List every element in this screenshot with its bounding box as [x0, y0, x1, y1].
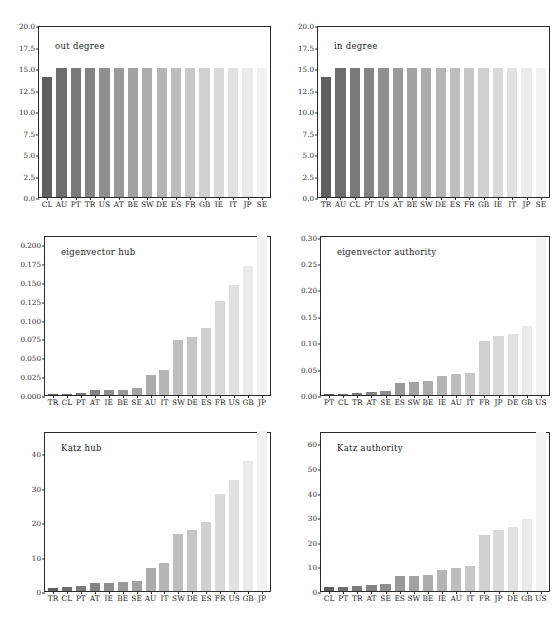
- panel-title: eigenvector hub: [61, 247, 135, 257]
- x-axis-tick-cell: US: [97, 197, 111, 213]
- x-axis-tick-cell: GB: [197, 197, 211, 213]
- x-axis-tick-row: PTCLTRATSEESSWBEIEAUITFRJPDEGBUS: [321, 395, 549, 411]
- bar: [350, 68, 360, 197]
- bar-slot: [171, 433, 185, 591]
- x-axis-tick-cell: ES: [199, 591, 213, 607]
- bar-slot: [449, 433, 463, 591]
- bar-slot: [54, 27, 68, 197]
- bar: [215, 494, 225, 591]
- x-axis-tick-cell: JP: [519, 197, 533, 213]
- bar: [464, 68, 474, 197]
- panel-title: eigenvector authority: [337, 247, 436, 257]
- bar-slot: [102, 433, 116, 591]
- x-axis-tick-cell: IT: [158, 591, 172, 607]
- x-axis-tick-label: IE: [438, 595, 446, 602]
- chart-panel-4: 010203040Katz hubTRCLPTATIEBESEAUITSWDEE…: [44, 432, 271, 592]
- bar-slot: [534, 433, 548, 591]
- x-axis-tick-label: DE: [187, 595, 198, 602]
- x-axis-tick-label: US: [99, 201, 110, 208]
- x-axis-tick-label: GB: [199, 201, 210, 208]
- x-axis-tick-label: TR: [352, 399, 363, 406]
- bar-slot: [116, 433, 130, 591]
- x-axis-tick-cell: AU: [144, 591, 158, 607]
- x-axis-tick-cell: PT: [74, 591, 88, 607]
- bar-slot: [534, 237, 548, 395]
- x-axis-tick-label: FR: [464, 201, 475, 208]
- bar: [229, 285, 239, 395]
- x-axis-tick-label: SE: [380, 399, 390, 406]
- x-axis-tick-label: US: [229, 595, 240, 602]
- x-axis-tick-label: BE: [423, 595, 434, 602]
- x-axis-tick-label: ES: [394, 399, 404, 406]
- bar-slot: [448, 27, 462, 197]
- bar-slot: [379, 433, 393, 591]
- x-axis-tick-cell: CL: [336, 395, 350, 411]
- bar-slot: [112, 27, 126, 197]
- x-axis-tick-label: SW: [420, 201, 433, 208]
- bar-slot: [407, 237, 421, 395]
- x-axis-tick-cell: IE: [102, 591, 116, 607]
- bar: [395, 383, 405, 395]
- x-axis-tick-cell: SE: [379, 591, 393, 607]
- bar-slot: [435, 237, 449, 395]
- x-axis-tick-label: GB: [242, 595, 253, 602]
- bar-slot: [255, 433, 269, 591]
- bar-slot: [197, 27, 211, 197]
- x-axis-tick-cell: FR: [213, 591, 227, 607]
- x-axis-tick-label: GB: [521, 399, 532, 406]
- x-axis-tick-cell: IT: [226, 197, 240, 213]
- bar: [450, 68, 460, 197]
- bar-slot: [364, 433, 378, 591]
- x-axis-tick-label: IE: [215, 201, 223, 208]
- bar: [423, 381, 433, 395]
- x-axis-tick-cell: PT: [362, 197, 376, 213]
- x-axis-tick-label: US: [229, 399, 240, 406]
- bar-slot: [364, 237, 378, 395]
- bar-slot: [155, 27, 169, 197]
- x-axis-tick-cell: GB: [241, 395, 255, 411]
- bar: [465, 566, 475, 591]
- bar-slot: [144, 237, 158, 395]
- x-axis-tick-cell: SW: [171, 395, 185, 411]
- bar-slot: [226, 27, 240, 197]
- bar-slot: [255, 237, 269, 395]
- bar-slot: [102, 237, 116, 395]
- x-axis-tick-label: FR: [479, 399, 490, 406]
- bar-slot: [74, 433, 88, 591]
- bar-slot: [477, 237, 491, 395]
- x-axis-tick-cell: ES: [393, 395, 407, 411]
- x-axis-tick-label: AU: [450, 399, 462, 406]
- x-axis-tick-cell: TR: [83, 197, 97, 213]
- bar: [321, 77, 331, 197]
- bar: [451, 568, 461, 591]
- bar-slot: [379, 237, 393, 395]
- bars-container: [45, 237, 270, 395]
- x-axis-tick-cell: ES: [199, 395, 213, 411]
- bar-slot: [477, 433, 491, 591]
- x-axis-tick-cell: CL: [40, 197, 54, 213]
- x-axis-tick-label: AU: [450, 595, 462, 602]
- x-axis-tick-label: SW: [141, 201, 154, 208]
- plot-axes: 0102030405060Katz authorityCLPTTRATSEESS…: [320, 432, 550, 592]
- bar: [536, 238, 546, 395]
- x-axis-tick-cell: PT: [322, 395, 336, 411]
- bar: [257, 235, 267, 395]
- x-axis-tick-cell: IT: [158, 395, 172, 411]
- x-axis-tick-label: DE: [507, 595, 518, 602]
- x-axis-tick-cell: JP: [255, 395, 269, 411]
- x-axis-tick-label: PT: [338, 595, 348, 602]
- x-axis-tick-cell: DE: [434, 197, 448, 213]
- bar: [421, 68, 431, 197]
- bar: [380, 584, 390, 591]
- x-axis-tick-label: PT: [71, 201, 81, 208]
- bar: [104, 583, 114, 591]
- x-axis-tick-label: AT: [367, 399, 377, 406]
- x-axis-tick-label: ES: [201, 399, 211, 406]
- x-axis-tick-cell: JP: [255, 591, 269, 607]
- bar-slot: [435, 433, 449, 591]
- x-axis-tick-label: JP: [495, 399, 503, 406]
- x-axis-tick-cell: GB: [476, 197, 490, 213]
- x-axis-tick-cell: TR: [350, 395, 364, 411]
- x-axis-tick-label: BE: [117, 399, 128, 406]
- x-axis-tick-cell: SW: [407, 395, 421, 411]
